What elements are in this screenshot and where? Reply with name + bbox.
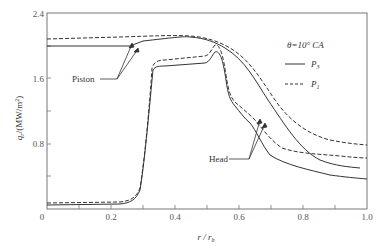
x-tick-0.6: 0.6 [233,212,245,222]
x-ticks [79,205,335,209]
series-piston-p1 [47,36,367,145]
y-tick-0.8: 0.8 [33,139,45,149]
head-leader [229,119,267,159]
x-tick-1.0: 1.0 [361,212,373,222]
x-axis-label: r / rb [197,232,214,243]
piston-leader [100,43,139,79]
y-ticks [47,46,51,176]
y-axis-label: qr/(MW/m2) [14,96,25,140]
heat-flux-chart: 0 0.2 0.4 0.6 0.8 1.0 0.8 1.6 2.4 r / rb… [0,0,381,251]
x-tick-0: 0 [40,212,45,222]
x-tick-0.4: 0.4 [169,212,181,222]
legend-solid-label: P3 [310,59,320,70]
x-tick-0.8: 0.8 [297,212,309,222]
series-piston-p3 [47,37,360,168]
piston-label: Piston [72,74,95,84]
x-tick-0.2: 0.2 [105,212,116,222]
y-tick-1.6: 1.6 [33,74,45,84]
series-head-p3 [47,52,367,205]
legend-dashed-label: P1 [310,79,320,90]
legend-title: θ=10° CA [287,40,324,50]
y-tick-2.4: 2.4 [33,9,45,19]
head-label: Head [209,154,228,164]
